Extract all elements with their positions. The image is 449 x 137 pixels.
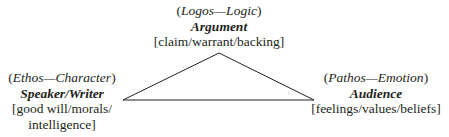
- argument-appeal: (Logos—Logic): [139, 3, 299, 19]
- paren-close: ): [424, 70, 429, 85]
- argument-appeal-label: Logos—Logic: [181, 3, 257, 18]
- node-speaker-writer: (Ethos—Character) Speaker/Writer [good w…: [2, 70, 122, 132]
- paren-close: ): [111, 70, 116, 85]
- audience-appeal-label: Pathos—Emotion: [328, 70, 423, 85]
- speaker-appeal-label: Ethos—Character: [13, 70, 111, 85]
- node-argument: (Logos—Logic) Argument [claim/warrant/ba…: [139, 3, 299, 50]
- speaker-details-line2: intelligence]: [2, 117, 122, 133]
- node-audience: (Pathos—Emotion) Audience [feelings/valu…: [306, 70, 446, 117]
- speaker-title: Speaker/Writer: [2, 86, 122, 102]
- speaker-details-line1: [good will/morals/: [2, 101, 122, 117]
- audience-details: [feelings/values/beliefs]: [306, 101, 446, 117]
- audience-appeal: (Pathos—Emotion): [306, 70, 446, 86]
- triangle-shape: [123, 53, 314, 100]
- argument-details: [claim/warrant/backing]: [139, 34, 299, 50]
- audience-title: Audience: [306, 86, 446, 102]
- speaker-appeal: (Ethos—Character): [2, 70, 122, 86]
- paren-close: ): [257, 3, 262, 18]
- argument-title: Argument: [139, 19, 299, 35]
